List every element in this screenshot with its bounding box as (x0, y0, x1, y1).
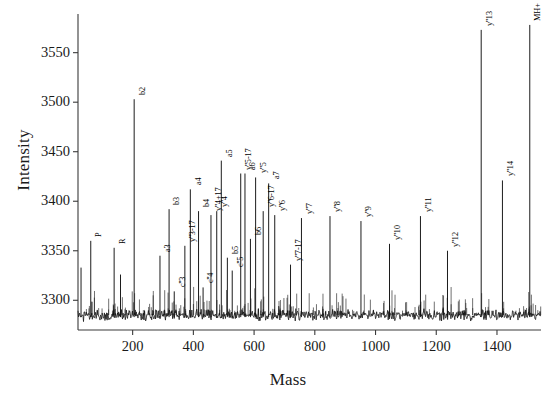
peak-label: y''6 (278, 200, 287, 211)
spectrum-trace (78, 25, 541, 322)
peak-label: y''8 (333, 201, 342, 212)
peak-label: b2 (138, 87, 147, 95)
x-axis-title: Mass (228, 370, 348, 390)
x-tick-label: 1200 (406, 338, 466, 355)
x-tick-label: 800 (285, 338, 345, 355)
peak-label: c''5 (236, 256, 245, 266)
x-tick-label: 1400 (467, 338, 527, 355)
peak-label: b6 (254, 227, 263, 235)
x-tick-label: 200 (103, 338, 163, 355)
peak-label: b3 (172, 197, 181, 205)
peak-label: y''3-17 (188, 220, 197, 242)
peak-label: c''3 (178, 277, 187, 287)
y-tick-label: 3350 (16, 242, 70, 259)
peak-label: y''11 (424, 197, 433, 212)
peak-label: b5 (231, 246, 240, 254)
x-tick-label: 600 (224, 338, 284, 355)
peak-label: a3 (163, 244, 172, 252)
x-tick-label: 400 (163, 338, 223, 355)
peak-label: MH+ (533, 3, 542, 21)
peak-label: a6 (248, 162, 257, 170)
y-tick-label: 3500 (16, 93, 70, 110)
peak-label: R (118, 238, 127, 243)
peak-label: y''7 (305, 203, 314, 214)
peak-label: a4 (194, 178, 203, 186)
peak-label: y''4 (220, 196, 229, 207)
peak-label: y''12 (451, 232, 460, 247)
peak-label: y''9 (364, 206, 373, 217)
y-tick-label: 3450 (16, 143, 70, 160)
peak-label: y''5 (259, 163, 268, 174)
y-tick-label: 3550 (16, 44, 70, 61)
peak-label: y''6-17 (267, 185, 276, 207)
peak-label: y''14 (506, 162, 515, 177)
peak-label: a7 (272, 172, 281, 180)
peak-label: b4 (202, 199, 211, 207)
mass-spectrum-figure: Intensity Mass 330033503400345035003550 … (0, 0, 546, 402)
peak-label: a5 (225, 149, 234, 157)
peak-label: y''13 (485, 11, 494, 26)
peak-label: y''10 (393, 225, 402, 240)
axes-layer (73, 14, 541, 335)
y-tick-label: 3400 (16, 192, 70, 209)
peak-label: c''4 (206, 273, 215, 283)
peak-label: y''7-17 (294, 239, 303, 261)
peak-label: P (94, 232, 103, 237)
x-tick-label: 1000 (346, 338, 406, 355)
y-tick-label: 3300 (16, 291, 70, 308)
